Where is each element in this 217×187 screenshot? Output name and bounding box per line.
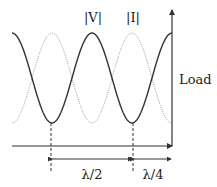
quarter-wavelength-label: λ/4 <box>143 167 164 182</box>
current-label: |I| <box>126 10 140 25</box>
half-wavelength-label: λ/2 <box>82 167 103 182</box>
load-label: Load <box>179 72 212 87</box>
voltage-label: |V| <box>84 10 102 25</box>
standing-wave-diagram: |V| |I| Load λ/2 λ/4 <box>0 0 217 187</box>
current-magnitude-curve <box>12 33 172 123</box>
voltage-magnitude-curve <box>12 33 172 123</box>
